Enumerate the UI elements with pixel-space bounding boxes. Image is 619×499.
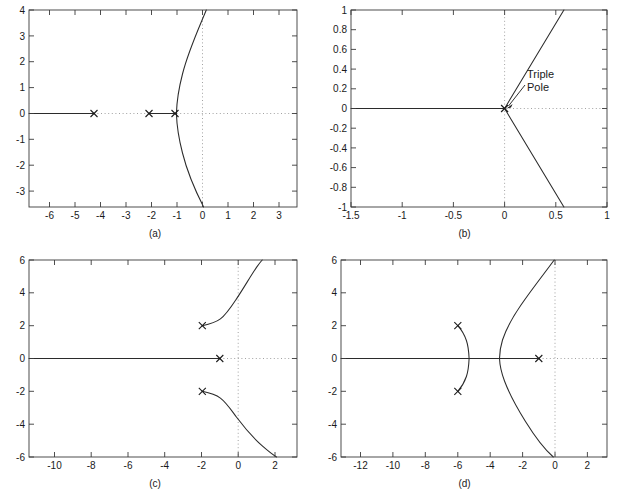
panel-c-plot: -10 -8 -6 -4 -2 0 2 -6 -4 -2 0 2 4 6 <box>0 250 310 482</box>
svg-text:-4: -4 <box>96 210 105 221</box>
svg-text:-0.5: -0.5 <box>445 210 463 221</box>
svg-text:0: 0 <box>200 210 206 221</box>
svg-text:-2: -2 <box>518 460 527 471</box>
svg-text:-10: -10 <box>47 460 62 471</box>
svg-text:-8: -8 <box>421 460 430 471</box>
svg-text:1: 1 <box>225 210 231 221</box>
svg-text:-10: -10 <box>386 460 401 471</box>
svg-text:-4: -4 <box>328 419 337 430</box>
complex-branch-lower <box>202 391 276 457</box>
panel-c-xticklabels: -10 -8 -6 -4 -2 0 2 <box>47 460 278 471</box>
panel-b-plot: Triple Pole <box>310 0 619 232</box>
svg-text:1: 1 <box>19 82 25 93</box>
panel-a-locus <box>29 10 206 207</box>
panel-b-yticklabels: -1 -0.8 -0.6 -0.4 -0.2 0 0.2 0.4 0.6 0.8… <box>330 5 348 213</box>
svg-text:-6: -6 <box>45 210 54 221</box>
svg-text:-8: -8 <box>87 460 96 471</box>
arriving-branch-lower <box>458 359 469 392</box>
panel-b-xticklabels: -1.5 -1 -0.5 0 0.5 1 <box>342 210 610 221</box>
arriving-branch-upper <box>458 326 469 359</box>
svg-text:-5: -5 <box>71 210 80 221</box>
svg-text:2: 2 <box>19 56 25 67</box>
triple-pole-annotation: Triple Pole <box>507 68 555 108</box>
panel-c: -10 -8 -6 -4 -2 0 2 -6 -4 -2 0 2 4 6 (c) <box>0 250 310 499</box>
panel-b: Triple Pole <box>310 0 619 250</box>
svg-text:-2: -2 <box>147 210 156 221</box>
panel-d: -12 -10 -8 -6 -4 -2 0 2 -6 -4 -2 0 2 4 6… <box>310 250 619 499</box>
svg-text:-1: -1 <box>173 210 182 221</box>
svg-text:-6: -6 <box>453 460 462 471</box>
complex-branch <box>176 10 206 207</box>
svg-text:-3: -3 <box>16 186 25 197</box>
panel-b-caption: (b) <box>310 228 619 239</box>
panel-a-grid <box>29 10 297 207</box>
svg-text:-6: -6 <box>124 460 133 471</box>
panel-a-yticks <box>29 10 297 191</box>
panel-d-plot: -12 -10 -8 -6 -4 -2 0 2 -6 -4 -2 0 2 4 6 <box>310 250 619 482</box>
asymptote-branch-lower <box>505 109 564 208</box>
svg-text:0: 0 <box>19 353 25 364</box>
svg-text:2: 2 <box>19 320 25 331</box>
svg-text:0: 0 <box>331 353 337 364</box>
pole-marker-x <box>454 388 461 395</box>
svg-text:2: 2 <box>251 210 257 221</box>
svg-text:2: 2 <box>272 460 278 471</box>
panel-c-caption: (c) <box>0 478 310 489</box>
triple-pole-label-line2: Pole <box>527 81 549 93</box>
svg-text:-2: -2 <box>328 386 337 397</box>
complex-branch-upper <box>202 260 262 326</box>
svg-text:-2: -2 <box>16 160 25 171</box>
svg-text:0.5: 0.5 <box>549 210 563 221</box>
svg-text:-3: -3 <box>122 210 131 221</box>
panel-a: -6 -5 -4 -3 -2 -1 0 1 2 3 -3 -2 -1 0 1 2… <box>0 0 310 250</box>
pole-marker-x <box>199 388 206 395</box>
panel-a-axis-frame <box>29 10 297 207</box>
svg-text:-2: -2 <box>16 386 25 397</box>
panel-d-xticklabels: -12 -10 -8 -6 -4 -2 0 2 <box>353 460 590 471</box>
svg-text:-4: -4 <box>16 419 25 430</box>
svg-text:-1: -1 <box>16 134 25 145</box>
panel-a-yticklabels: -3 -2 -1 0 1 2 3 4 <box>16 5 25 197</box>
svg-text:0: 0 <box>502 210 508 221</box>
panel-d-yticklabels: -6 -4 -2 0 2 4 6 <box>328 255 337 463</box>
svg-text:0: 0 <box>341 103 347 114</box>
svg-text:-6: -6 <box>328 452 337 463</box>
pole-marker-x <box>454 322 461 329</box>
svg-text:-2: -2 <box>197 460 206 471</box>
svg-text:-1: -1 <box>398 210 407 221</box>
panel-c-locus <box>29 260 277 457</box>
panel-a-caption: (a) <box>0 228 310 239</box>
svg-text:0.6: 0.6 <box>333 44 347 55</box>
svg-text:0.8: 0.8 <box>333 24 347 35</box>
svg-text:2: 2 <box>585 460 591 471</box>
svg-text:-4: -4 <box>160 460 169 471</box>
svg-text:0: 0 <box>19 108 25 119</box>
panel-d-locus <box>341 260 554 457</box>
svg-text:1: 1 <box>341 5 347 16</box>
svg-text:-4: -4 <box>486 460 495 471</box>
svg-text:2: 2 <box>331 320 337 331</box>
svg-text:-0.8: -0.8 <box>330 182 348 193</box>
svg-text:-0.2: -0.2 <box>330 123 348 134</box>
svg-text:3: 3 <box>276 210 282 221</box>
svg-text:-0.4: -0.4 <box>330 143 348 154</box>
panel-d-caption: (d) <box>310 478 619 489</box>
svg-text:-0.6: -0.6 <box>330 162 348 173</box>
svg-text:3: 3 <box>19 31 25 42</box>
svg-text:6: 6 <box>331 255 337 266</box>
svg-text:6: 6 <box>19 255 25 266</box>
panel-a-plot: -6 -5 -4 -3 -2 -1 0 1 2 3 -3 -2 -1 0 1 2… <box>0 0 310 232</box>
svg-text:4: 4 <box>331 287 337 298</box>
svg-text:4: 4 <box>19 287 25 298</box>
svg-text:-12: -12 <box>353 460 368 471</box>
asymptote-branch-upper <box>505 10 564 109</box>
svg-text:0.2: 0.2 <box>333 83 347 94</box>
root-locus-figure: -6 -5 -4 -3 -2 -1 0 1 2 3 -3 -2 -1 0 1 2… <box>0 0 619 499</box>
svg-text:-1: -1 <box>338 202 347 213</box>
svg-text:0: 0 <box>235 460 241 471</box>
svg-text:4: 4 <box>19 5 25 16</box>
svg-text:1: 1 <box>604 210 610 221</box>
svg-text:0.4: 0.4 <box>333 64 347 75</box>
panel-a-xticks <box>50 10 280 207</box>
pole-marker-x <box>199 322 206 329</box>
